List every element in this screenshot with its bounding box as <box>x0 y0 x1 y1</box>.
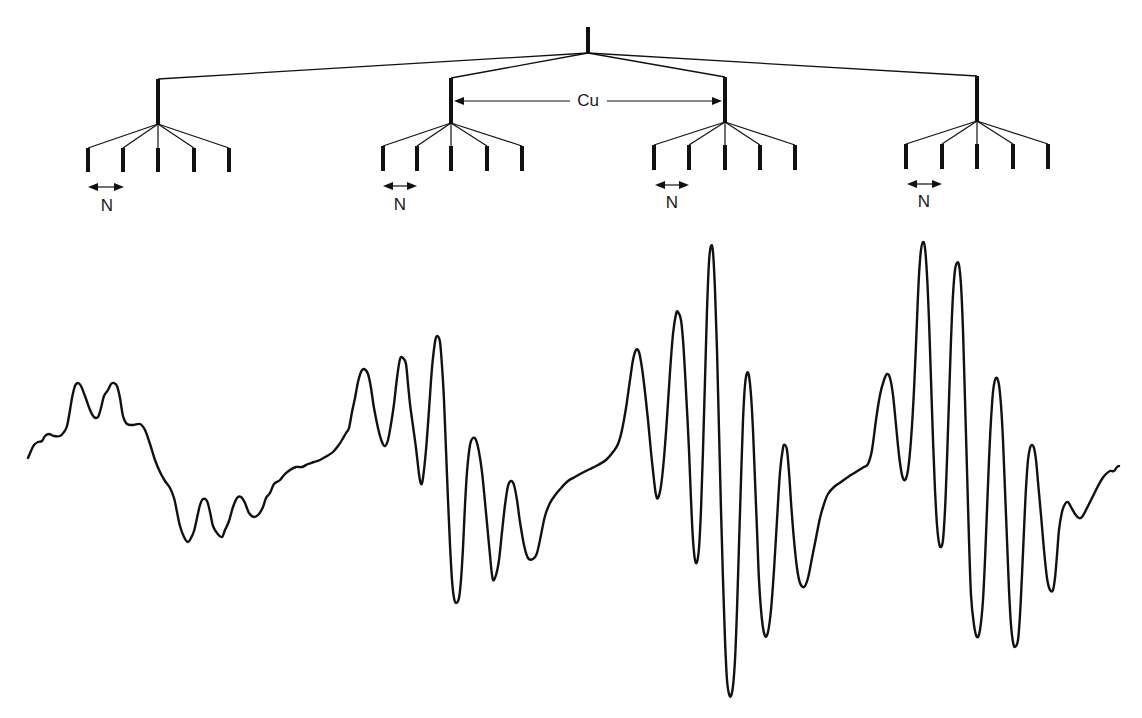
cu-branch-connector <box>158 53 588 79</box>
hyperfine-diagram <box>0 0 1142 718</box>
n-branch-connector <box>158 124 229 148</box>
n-branch-connector <box>689 122 725 145</box>
n-branch-connector <box>88 124 158 148</box>
arrow-right-icon <box>679 181 689 189</box>
arrow-right-icon <box>932 180 942 188</box>
n-branch-connector <box>417 123 451 146</box>
splitting-tree <box>88 27 1048 172</box>
n-coupling-label: N <box>99 197 115 215</box>
n-branch-connector <box>942 121 977 144</box>
n-branch-connector <box>123 124 158 148</box>
epr-spectrum-trace <box>28 242 1119 697</box>
n-branch-connector <box>906 121 977 144</box>
n-branch-connector <box>977 121 1048 144</box>
n-branch-connector <box>158 124 194 148</box>
arrow-right-icon <box>407 182 417 190</box>
n-branch-connector <box>977 121 1013 144</box>
cu-coupling-label: Cu <box>575 92 601 110</box>
n-coupling-label: N <box>916 193 932 211</box>
cu-branch-connector <box>588 53 977 76</box>
n-coupling-label: N <box>392 196 408 214</box>
arrow-left-icon <box>907 180 917 188</box>
n-branch-connector <box>725 122 795 145</box>
n-branch-connector <box>383 123 451 146</box>
arrow-left-icon <box>454 97 464 105</box>
arrow-left-icon <box>655 181 665 189</box>
arrow-right-icon <box>712 97 722 105</box>
n-branch-connector <box>654 122 725 145</box>
arrow-left-icon <box>383 182 393 190</box>
n-branch-connector <box>451 123 522 146</box>
arrow-right-icon <box>114 183 124 191</box>
arrow-left-icon <box>88 183 98 191</box>
n-branch-connector <box>725 122 760 145</box>
n-coupling-label: N <box>664 194 680 212</box>
n-branch-connector <box>451 123 487 146</box>
